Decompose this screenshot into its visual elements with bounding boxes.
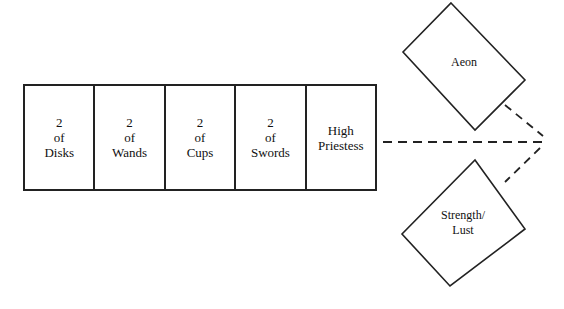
diagram-shapes	[0, 0, 564, 309]
diamond-label-strength-lust: Strength/ Lust	[423, 208, 503, 238]
dashed-connector-lower	[505, 148, 540, 182]
diamond-label-line: Strength/	[423, 208, 503, 223]
dashed-connector-upper	[505, 105, 543, 136]
diamond-label-line: Lust	[423, 223, 503, 238]
diamond-label-aeon: Aeon	[424, 55, 504, 70]
